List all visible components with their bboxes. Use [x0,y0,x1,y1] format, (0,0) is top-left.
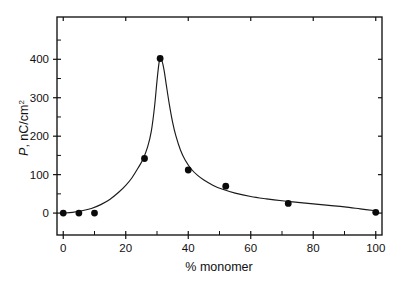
data-point [157,55,164,62]
x-tick-label: 100 [366,242,385,254]
y-axis-title: P, nC/cm2 [17,100,31,156]
y-tick-label: 300 [30,92,49,104]
data-point [60,210,67,217]
data-point [285,200,292,207]
y-tick-label: 0 [43,207,49,219]
y-tick-label: 400 [30,53,49,65]
figure-container: 0100200300400 020406080100 % monomer P, … [0,0,407,283]
x-tick-label: 60 [244,242,257,254]
y-tick-label: 100 [30,169,49,181]
data-point [372,209,379,216]
y-tick-label: 200 [30,130,49,142]
x-tick-label: 40 [182,242,195,254]
data-point [75,210,82,217]
figure-background [0,0,407,283]
data-point [141,155,148,162]
x-tick-label: 80 [307,242,320,254]
chart-canvas: 0100200300400 020406080100 % monomer P, … [0,0,407,283]
data-point [222,183,229,190]
x-tick-label: 20 [119,242,132,254]
data-point [91,210,98,217]
x-tick-label: 0 [60,242,66,254]
x-axis-title: % monomer [185,260,252,274]
data-point [185,167,192,174]
